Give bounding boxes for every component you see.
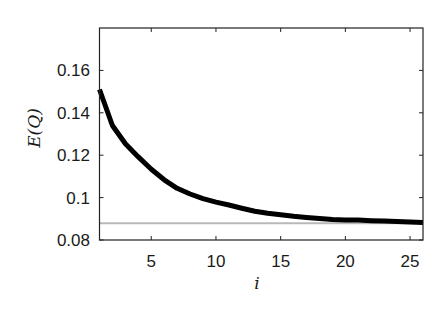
y-tick-label: 0.12 bbox=[57, 146, 90, 165]
y-tick-label: 0.16 bbox=[57, 61, 90, 80]
y-tick-label: 0.14 bbox=[57, 104, 90, 123]
y-tick-label: 0.08 bbox=[57, 231, 90, 250]
x-tick-label: 20 bbox=[336, 252, 355, 271]
line-chart: 510152025 0.080.10.120.140.16 i E(Q) bbox=[0, 0, 441, 317]
x-axis-label: i bbox=[254, 273, 259, 293]
x-tick-labels: 510152025 bbox=[147, 252, 420, 271]
x-tick-label: 25 bbox=[401, 252, 420, 271]
y-tick-labels: 0.080.10.120.140.16 bbox=[57, 61, 90, 250]
x-tick-label: 10 bbox=[206, 252, 225, 271]
y-axis-label: E(Q) bbox=[24, 108, 44, 149]
y-tick-label: 0.1 bbox=[66, 189, 90, 208]
x-tick-label: 15 bbox=[271, 252, 290, 271]
series-layer bbox=[100, 90, 424, 224]
series-e-q--line bbox=[100, 90, 424, 223]
ticks-layer bbox=[100, 28, 424, 240]
axes-box bbox=[100, 28, 424, 240]
x-tick-label: 5 bbox=[147, 252, 156, 271]
